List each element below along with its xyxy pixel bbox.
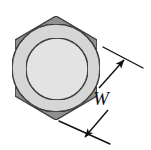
hex-nut-figure: W	[0, 0, 151, 150]
hex-nut-diagram-svg: W	[0, 0, 151, 150]
dimension-label-w: W	[93, 88, 111, 109]
inner-circle	[26, 38, 88, 100]
